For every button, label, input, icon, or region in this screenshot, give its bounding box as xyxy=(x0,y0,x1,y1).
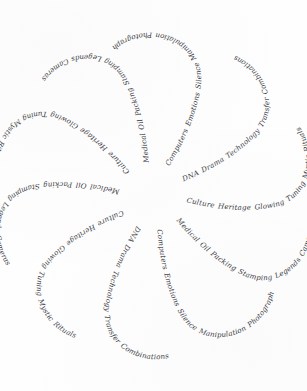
spiral-text-artwork: Computers Emotions Silence Manipulation … xyxy=(0,0,307,391)
artwork-canvas: Computers Emotions Silence Manipulation … xyxy=(0,0,307,391)
paper-background xyxy=(0,0,307,391)
